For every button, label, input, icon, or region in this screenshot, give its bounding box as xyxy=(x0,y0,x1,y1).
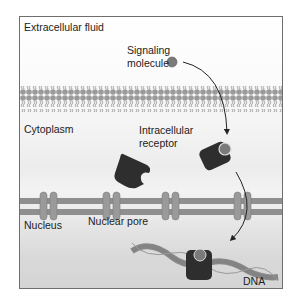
label-nuclear-pore: Nuclear pore xyxy=(88,215,148,227)
label-dna: DNA xyxy=(243,275,265,287)
intracellular-receptor-bound xyxy=(198,140,233,172)
label-signaling-line1: Signaling xyxy=(127,44,170,56)
label-cytoplasm: Cytoplasm xyxy=(24,123,74,135)
diagram-frame: Extracellular fluid Signaling molecule C… xyxy=(19,16,283,289)
label-nucleus: Nucleus xyxy=(24,219,62,231)
intracellular-receptor-empty xyxy=(114,154,150,188)
label-signaling-line2: molecule xyxy=(127,57,169,69)
label-extracellular-fluid: Extracellular fluid xyxy=(24,21,104,33)
label-receptor-line1: Intracellular xyxy=(139,124,193,136)
plasma-membrane xyxy=(20,86,283,112)
label-receptor-line2: receptor xyxy=(139,137,178,149)
nuclear-envelope xyxy=(20,198,283,215)
receptor-on-dna xyxy=(186,249,212,280)
